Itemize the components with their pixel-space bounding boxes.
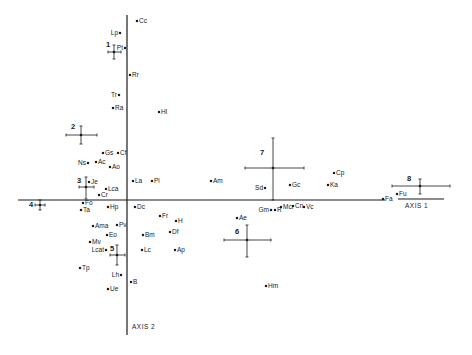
point-label: Gs — [105, 149, 114, 156]
point-label: Ac — [98, 158, 106, 165]
group-centroid: 5 — [110, 244, 125, 265]
point-marker — [82, 202, 84, 204]
point-label: Eo — [109, 231, 117, 238]
centroid-marker — [116, 254, 119, 257]
point-label: Sd — [255, 184, 263, 191]
data-point: Rr — [129, 71, 140, 78]
point-marker — [124, 47, 126, 49]
point-marker — [289, 184, 291, 186]
point-marker — [119, 32, 121, 34]
point-label: Cc — [139, 17, 148, 24]
data-point: Fr — [159, 212, 169, 219]
data-point: Gc — [289, 181, 301, 188]
data-point: Sd — [255, 184, 266, 191]
point-label: B — [133, 278, 137, 285]
point-marker — [303, 206, 305, 208]
data-point: Ka — [327, 181, 338, 188]
data-point: Cc — [136, 17, 148, 24]
data-point: Am — [210, 177, 223, 184]
point-marker — [333, 172, 335, 174]
point-marker — [292, 205, 294, 207]
group-centroid: 7 — [245, 138, 304, 200]
data-point: Vc — [303, 203, 314, 210]
data-point: Gm — [259, 206, 273, 213]
point-marker — [130, 281, 132, 283]
data-point: Hp — [107, 203, 119, 211]
data-point: Cp — [333, 169, 345, 177]
data-point: Df — [169, 228, 179, 235]
point-label: Lp — [111, 29, 119, 37]
group-centroid: 2 — [66, 122, 97, 144]
point-marker — [159, 215, 161, 217]
point-label: Fu — [399, 190, 407, 197]
data-point: Ae — [236, 214, 247, 221]
point-marker — [117, 152, 119, 154]
centroid-label: 1 — [106, 40, 110, 49]
point-label: Gm — [259, 206, 269, 213]
point-marker — [169, 231, 171, 233]
data-point: Lcat — [92, 246, 107, 253]
point-marker — [280, 206, 282, 208]
point-marker — [175, 220, 177, 222]
data-point: Pt — [117, 44, 126, 51]
point-marker — [105, 249, 107, 251]
centroid-label: 5 — [110, 244, 114, 253]
centroid-marker — [113, 51, 116, 54]
data-point: Tp — [79, 264, 90, 272]
point-label: Fo — [85, 199, 93, 206]
data-point: Ta — [80, 206, 90, 213]
axis-2-label: AXIS 2 — [132, 323, 155, 330]
point-marker — [109, 166, 111, 168]
point-marker — [141, 249, 143, 251]
point-label: Fa — [385, 195, 393, 202]
point-label: Vc — [306, 203, 314, 210]
point-marker — [264, 187, 266, 189]
point-marker — [120, 274, 122, 276]
point-marker — [95, 161, 97, 163]
point-label: Hp — [110, 203, 119, 211]
centroid-marker — [246, 239, 249, 242]
centroid-marker — [80, 134, 83, 137]
point-label: Hl — [161, 108, 168, 115]
point-label: Tr — [111, 91, 118, 98]
data-point: B — [130, 278, 137, 285]
point-marker — [396, 193, 398, 195]
point-label: Lca — [108, 185, 119, 192]
point-label: Ka — [330, 181, 338, 188]
data-point: Ap — [174, 246, 185, 254]
data-point: Ue — [107, 285, 119, 292]
point-marker — [107, 206, 109, 208]
data-point: Hl — [158, 108, 168, 115]
group-centroids: 12345678 — [29, 40, 450, 265]
point-label: Cp — [336, 169, 345, 177]
data-point: Pl — [151, 177, 160, 184]
centroid-label: 7 — [260, 148, 264, 157]
point-label: Ta — [83, 206, 90, 213]
point-marker — [142, 234, 144, 236]
data-point: H — [175, 217, 183, 224]
point-label: H — [178, 217, 183, 224]
data-point: Gs — [102, 149, 114, 156]
point-label: Ap — [177, 246, 185, 254]
point-label: Ae — [239, 214, 247, 221]
point-label: Cr — [101, 191, 109, 198]
axis-1-label: AXIS 1 — [405, 202, 428, 209]
point-marker — [210, 180, 212, 182]
centroid-marker — [272, 167, 275, 170]
point-label: Ns — [78, 159, 87, 166]
point-marker — [87, 162, 89, 164]
point-marker — [270, 209, 272, 211]
point-marker — [129, 74, 131, 76]
ordination-scatter-plot: AXIS 1 AXIS 2 12345678 CcLpPtRrTrRaHlGsC… — [0, 0, 472, 355]
point-marker — [106, 234, 108, 236]
centroid-label: 2 — [71, 122, 75, 131]
data-point: Cr — [98, 191, 109, 198]
point-label: Tp — [82, 264, 90, 272]
point-marker — [102, 152, 104, 154]
data-point: Tr — [111, 91, 120, 98]
group-centroid: 6 — [224, 225, 271, 257]
data-point: Pv — [116, 221, 127, 228]
point-marker — [116, 224, 118, 226]
centroid-label: 4 — [29, 200, 34, 209]
point-marker — [151, 180, 153, 182]
